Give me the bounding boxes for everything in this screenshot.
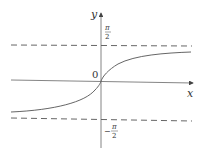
x-axis bbox=[11, 80, 193, 83]
x-axis-label: x bbox=[187, 87, 194, 100]
lower-asymptote-label-den: 2 bbox=[112, 132, 116, 140]
lower-asymptote-label-num: π bbox=[111, 123, 117, 131]
lower-asymptote-label-sign: − bbox=[104, 127, 111, 136]
arctan-graph: y x 0 π 2 − π 2 bbox=[0, 0, 202, 152]
upper-asymptote bbox=[11, 45, 192, 46]
lower-asymptote bbox=[11, 118, 192, 121]
origin-label: 0 bbox=[92, 69, 98, 80]
upper-asymptote-label-den: 2 bbox=[105, 33, 109, 41]
upper-asymptote-label-num: π bbox=[104, 24, 110, 32]
y-axis-label: y bbox=[90, 8, 98, 21]
